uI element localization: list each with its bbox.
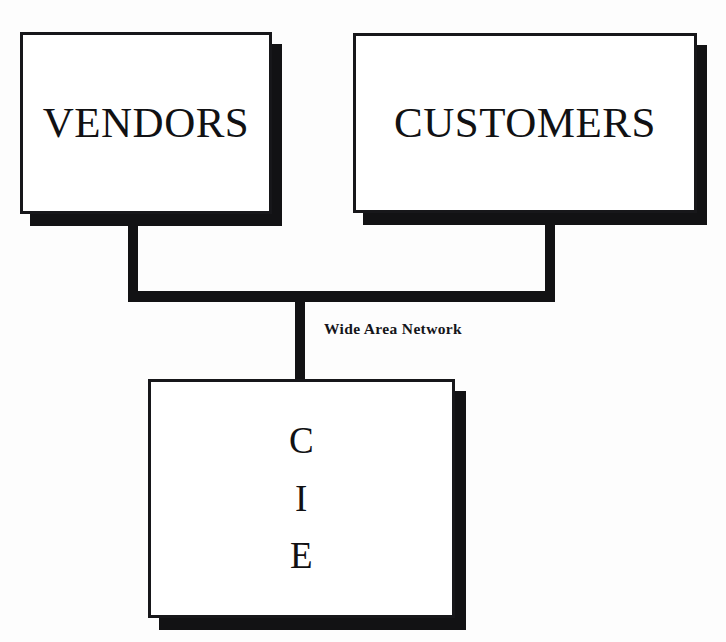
node-box-customers[interactable]: CUSTOMERS — [353, 33, 697, 213]
connector-bus-to-cie — [295, 291, 305, 381]
node-box-cie[interactable]: C I E — [148, 379, 455, 618]
connector-wide-area-network-bus — [128, 291, 555, 302]
node-box-vendors[interactable]: VENDORS — [20, 32, 272, 214]
wide-area-network-label: Wide Area Network — [324, 320, 462, 338]
node-label-cie: C I E — [289, 412, 314, 584]
node-label-vendors: VENDORS — [43, 100, 250, 146]
connector-vendors-to-bus — [128, 214, 138, 296]
connector-customers-to-bus — [545, 213, 555, 296]
network-diagram-canvas: VENDORS CUSTOMERS C I E Wide Area Networ… — [0, 0, 726, 642]
node-label-customers: CUSTOMERS — [394, 100, 656, 146]
